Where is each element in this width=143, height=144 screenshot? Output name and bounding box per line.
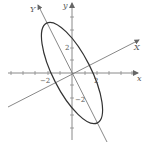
ellipse-diagram: x y X Y −2 2 2 −2 <box>0 0 143 144</box>
x-tick-label-neg2: −2 <box>40 77 50 85</box>
y-axis <box>70 3 74 140</box>
y-axis-label: y <box>62 1 68 10</box>
rotated-x-label: X <box>133 43 140 52</box>
y-tick-label-neg2: −2 <box>75 96 85 104</box>
rotated-y-label: Y <box>30 5 36 14</box>
y-tick-label-2: 2 <box>65 44 69 52</box>
x-axis-label: x <box>137 74 142 83</box>
x-tick-label-2: 2 <box>94 77 98 85</box>
